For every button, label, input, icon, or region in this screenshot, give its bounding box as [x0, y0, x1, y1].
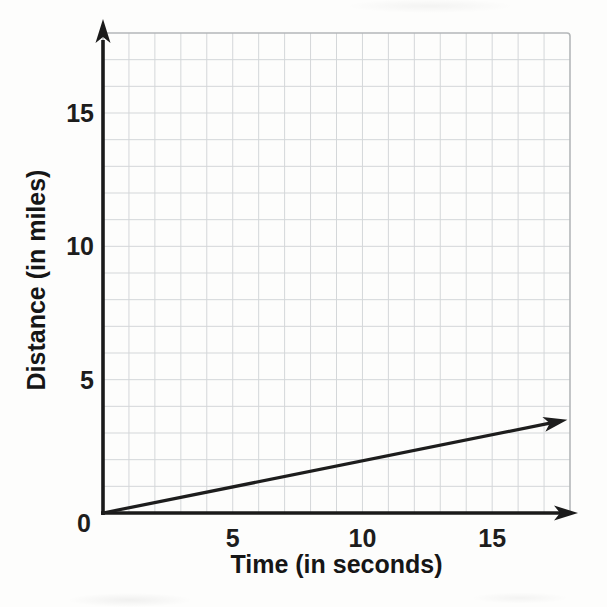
- y-tick-label: 5: [80, 366, 94, 394]
- data-line: [103, 422, 554, 513]
- x-tick-label: 5: [226, 524, 240, 552]
- y-axis-title: Distance (in miles): [22, 170, 51, 391]
- origin-tick-label: 0: [77, 509, 91, 537]
- x-axis-title: Time (in seconds): [103, 550, 570, 579]
- x-tick-label: 10: [349, 524, 377, 552]
- scanned-graph-page: Distance (in miles) 51015151050 Time (in…: [0, 0, 607, 607]
- distance-time-graph: 51015151050: [0, 0, 607, 607]
- y-tick-label: 10: [66, 232, 94, 260]
- x-tick-label: 15: [478, 524, 506, 552]
- y-tick-label: 15: [66, 99, 94, 127]
